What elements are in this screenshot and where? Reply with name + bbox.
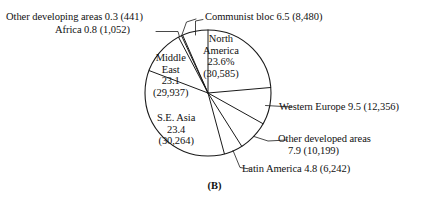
label-middle-east-line2: East [153, 64, 188, 76]
label-other-developing-areas: Other developing areas 0.3 (441) [6, 11, 143, 23]
label-north-america-line2: America [203, 45, 239, 57]
label-middle-east-line1: Middle [153, 52, 188, 64]
label-middle-east-percent: 23.1 [153, 75, 188, 87]
label-north-america-percent: 23.6% [203, 56, 239, 68]
pie-chart-figure: Other developing areas 0.3 (441) Africa … [0, 0, 429, 206]
label-se-asia-absolute: (30,264) [157, 135, 195, 147]
label-north-america-absolute: (30,585) [203, 68, 239, 80]
label-other-developed-areas-line2: 7.9 (10,199) [278, 145, 371, 157]
label-africa-text: Africa 0.8 (1,052) [55, 24, 130, 36]
figure-caption: (B) [0, 180, 429, 191]
label-se-asia-percent: 23.4 [157, 124, 195, 136]
label-se-asia: S.E. Asia 23.4 (30,264) [157, 112, 195, 147]
label-se-asia-line1: S.E. Asia [157, 112, 195, 124]
leader-africa [156, 32, 180, 37]
label-north-america: North America 23.6% (30,585) [203, 33, 239, 79]
label-middle-east: Middle East 23.1 (29,937) [153, 52, 188, 98]
label-other-developed-areas: Other developed areas 7.9 (10,199) [278, 133, 371, 156]
label-latin-america: Latin America 4.8 (6,242) [242, 163, 350, 175]
label-western-europe: Western Europe 9.5 (12,356) [279, 101, 399, 113]
label-middle-east-absolute: (29,937) [153, 87, 188, 99]
label-other-developed-areas-line1: Other developed areas [278, 133, 371, 145]
label-africa: Africa 0.8 (1,052) [55, 24, 130, 36]
label-north-america-line1: North [203, 33, 239, 45]
label-latin-america-text: Latin America 4.8 (6,242) [242, 163, 350, 175]
label-communist-bloc: Communist bloc 6.5 (8,480) [205, 11, 322, 23]
label-western-europe-text: Western Europe 9.5 (12,356) [279, 101, 399, 113]
label-communist-bloc-text: Communist bloc 6.5 (8,480) [205, 11, 322, 23]
label-other-developing-areas-text: Other developing areas 0.3 (441) [6, 11, 143, 23]
